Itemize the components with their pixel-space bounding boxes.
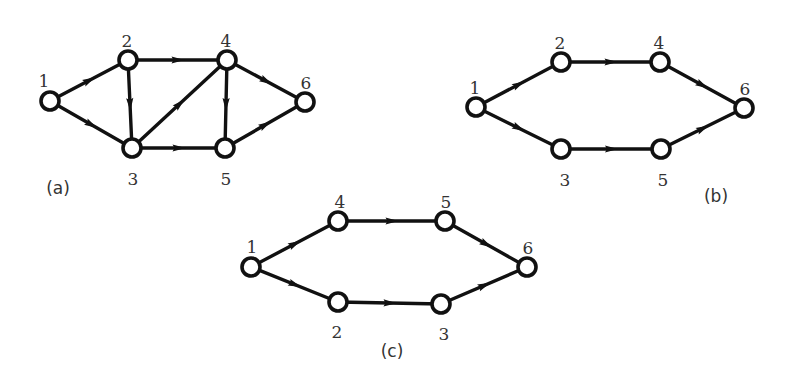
- node-label-3: 3: [439, 324, 450, 344]
- node-label-6: 6: [740, 79, 751, 99]
- node-label-2: 2: [122, 31, 133, 51]
- panel-label-a: (a): [46, 178, 70, 198]
- node-2: [329, 293, 347, 311]
- node-label-5: 5: [221, 169, 232, 189]
- node-label-3: 3: [128, 169, 139, 189]
- node-4: [329, 212, 347, 230]
- node-label-1: 1: [470, 78, 481, 98]
- node-5: [216, 139, 234, 157]
- graph-panel-c: 145236(c): [242, 192, 536, 362]
- node-label-2: 2: [555, 33, 566, 53]
- node-6: [518, 258, 536, 276]
- node-2: [552, 53, 570, 71]
- node-label-3: 3: [560, 170, 571, 190]
- node-3: [552, 140, 570, 158]
- node-label-1: 1: [247, 237, 258, 257]
- node-1: [41, 92, 59, 110]
- node-1: [467, 98, 485, 116]
- graph-panel-b: 123456(b): [467, 33, 753, 207]
- graph-figure: 123456(a) 123456(b) 145236(c): [0, 0, 794, 380]
- node-label-4: 4: [654, 33, 665, 53]
- node-label-5: 5: [658, 170, 669, 190]
- node-label-6: 6: [301, 73, 312, 93]
- node-2: [119, 51, 137, 69]
- node-label-6: 6: [523, 238, 534, 258]
- node-label-4: 4: [221, 31, 232, 51]
- node-6: [735, 99, 753, 117]
- node-label-5: 5: [441, 192, 452, 212]
- arrow-icon: [477, 279, 492, 291]
- panel-label-c: (c): [381, 341, 404, 361]
- node-4: [651, 53, 669, 71]
- panel-label-b: (b): [704, 186, 728, 206]
- node-5: [436, 212, 454, 230]
- node-1: [242, 258, 260, 276]
- node-4: [218, 51, 236, 69]
- arrow-icon: [288, 279, 303, 291]
- graph-panel-a: 123456(a): [39, 31, 314, 199]
- node-label-1: 1: [39, 71, 50, 91]
- node-3: [123, 139, 141, 157]
- node-3: [432, 295, 450, 313]
- node-6: [296, 93, 314, 111]
- node-label-4: 4: [335, 192, 346, 212]
- node-label-2: 2: [332, 322, 343, 342]
- node-5: [652, 140, 670, 158]
